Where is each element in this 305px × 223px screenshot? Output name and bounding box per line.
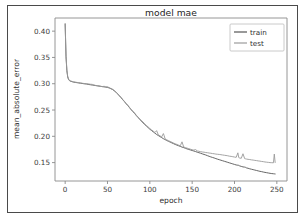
x-tick-label: 150	[185, 185, 199, 194]
y-axis-title: mean_absolute_error	[12, 58, 21, 139]
chart-title: model mae	[145, 7, 197, 18]
legend-label-test: test	[250, 39, 264, 48]
y-tick-label: 0.40	[34, 27, 50, 36]
y-tick-label: 0.35	[34, 53, 50, 62]
x-tick-label: 200	[228, 185, 242, 194]
x-tick-label: 50	[103, 185, 113, 194]
x-tick-label: 0	[63, 185, 68, 194]
x-tick-label: 100	[143, 185, 157, 194]
x-tick-label: 250	[270, 185, 284, 194]
y-tick-label: 0.15	[34, 158, 50, 167]
legend-label-train: train	[250, 28, 267, 37]
y-axis-ticks: 0.150.200.250.300.350.40	[34, 27, 55, 167]
chart-legend[interactable]: traintest	[230, 24, 284, 51]
y-tick-label: 0.25	[34, 106, 50, 115]
y-tick-label: 0.20	[34, 132, 50, 141]
x-axis-title: epoch	[159, 196, 182, 205]
x-axis-ticks: 050100150200250	[63, 181, 284, 194]
mae-line-chart: model mae 050100150200250 0.150.200.250.…	[0, 0, 305, 223]
y-tick-label: 0.30	[34, 79, 50, 88]
